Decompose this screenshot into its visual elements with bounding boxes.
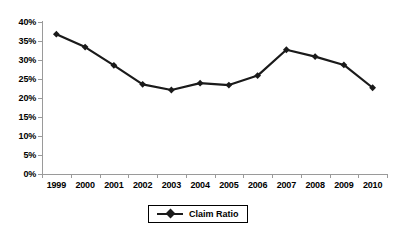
data-point-marker <box>312 53 319 60</box>
data-point-marker <box>53 31 60 38</box>
series-claim-ratio <box>0 0 403 236</box>
data-point-marker <box>168 87 175 94</box>
data-point-marker <box>225 82 232 89</box>
series-line <box>56 34 372 90</box>
line-chart: 40% 35% 30% 25% 20% 15% 10% 5% 0% 199920… <box>0 0 403 236</box>
chart-legend: Claim Ratio <box>148 205 248 223</box>
data-point-marker <box>197 80 204 87</box>
legend-entry-label: Claim Ratio <box>189 209 239 219</box>
diamond-marker-icon <box>157 209 183 219</box>
